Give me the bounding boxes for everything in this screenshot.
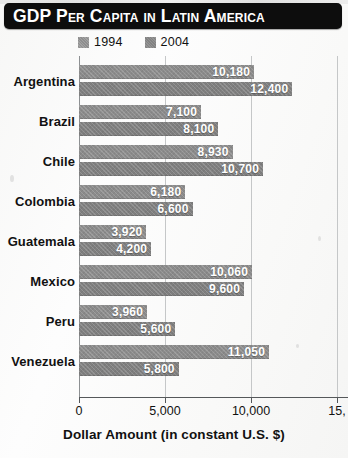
bar-chile-2004: 10,700 <box>79 162 263 176</box>
bar-mexico-2004: 9,600 <box>79 282 244 296</box>
bar-value-label: 10,060 <box>210 265 248 279</box>
page-title: GDP Per Capita in Latin America <box>13 6 265 27</box>
bar-value-label: 7,100 <box>166 105 197 119</box>
bar-colombia-2004: 6,600 <box>79 202 193 216</box>
bar-value-label: 10,180 <box>212 65 250 79</box>
bar-value-label: 11,050 <box>228 345 265 359</box>
bar-value-label: 4,200 <box>116 242 147 256</box>
x-axis-tick <box>79 397 80 403</box>
bar-value-label: 9,600 <box>209 282 240 296</box>
category-label-peru: Peru <box>46 313 75 328</box>
scan-speck <box>296 344 299 348</box>
x-axis-line <box>79 397 348 398</box>
plot-area: 10,18012,4007,1008,1008,93010,7006,1806,… <box>79 56 348 397</box>
bar-peru-1994: 3,960 <box>79 305 147 319</box>
chart-legend: 1994 2004 <box>78 33 189 51</box>
category-label-mexico: Mexico <box>30 273 75 288</box>
legend-label-2004: 2004 <box>161 35 190 49</box>
bar-value-label: 3,920 <box>111 225 142 239</box>
x-axis-tick <box>165 397 166 403</box>
category-label-guatemala: Guatemala <box>8 233 75 248</box>
legend-item-2004: 2004 <box>145 35 190 49</box>
bar-value-label: 6,600 <box>157 202 188 216</box>
bar-value-label: 8,100 <box>183 122 214 136</box>
bar-value-label: 5,600 <box>140 322 171 336</box>
scan-speck <box>318 236 321 241</box>
category-label-brazil: Brazil <box>39 113 75 128</box>
x-axis-tick <box>337 397 338 403</box>
chart-title-banner: GDP Per Capita in Latin America <box>4 3 342 29</box>
x-axis-tick-label: 0 <box>76 404 83 418</box>
bar-value-label: 6,180 <box>150 185 181 199</box>
bar-value-label: 12,400 <box>250 82 288 96</box>
legend-item-1994: 1994 <box>78 35 123 49</box>
bar-venezuela-1994: 11,050 <box>79 345 269 359</box>
bar-chile-1994: 8,930 <box>79 145 233 159</box>
bar-value-label: 8,930 <box>198 145 229 159</box>
gridline <box>337 56 338 397</box>
x-axis-title: Dollar Amount (in constant U.S. $) <box>0 427 348 442</box>
bar-guatemala-2004: 4,200 <box>79 242 151 256</box>
category-label-colombia: Colombia <box>15 193 75 208</box>
bar-argentina-2004: 12,400 <box>79 82 292 96</box>
x-axis-tick-label: 10,000 <box>232 404 270 418</box>
x-axis-tick <box>251 397 252 403</box>
bar-guatemala-1994: 3,920 <box>79 225 146 239</box>
bar-value-label: 3,960 <box>112 305 143 319</box>
bar-argentina-1994: 10,180 <box>79 65 254 79</box>
scan-speck <box>10 175 14 182</box>
legend-swatch-icon-1994 <box>78 37 89 48</box>
bar-brazil-2004: 8,100 <box>79 122 218 136</box>
bar-brazil-1994: 7,100 <box>79 105 201 119</box>
bar-value-label: 5,800 <box>144 362 175 376</box>
x-axis-tick-label: 5,000 <box>149 404 180 418</box>
bar-colombia-1994: 6,180 <box>79 185 185 199</box>
bar-venezuela-2004: 5,800 <box>79 362 179 376</box>
legend-label-1994: 1994 <box>94 35 123 49</box>
category-label-venezuela: Venezuela <box>11 353 75 368</box>
bar-value-label: 10,700 <box>221 162 259 176</box>
x-axis-tick-label: 15, <box>328 404 345 418</box>
category-label-chile: Chile <box>43 153 75 168</box>
bar-mexico-1994: 10,060 <box>79 265 252 279</box>
bar-peru-2004: 5,600 <box>79 322 175 336</box>
category-label-argentina: Argentina <box>13 73 75 88</box>
legend-swatch-icon-2004 <box>145 37 156 48</box>
chart-figure: GDP Per Capita in Latin America 1994 200… <box>0 0 348 458</box>
